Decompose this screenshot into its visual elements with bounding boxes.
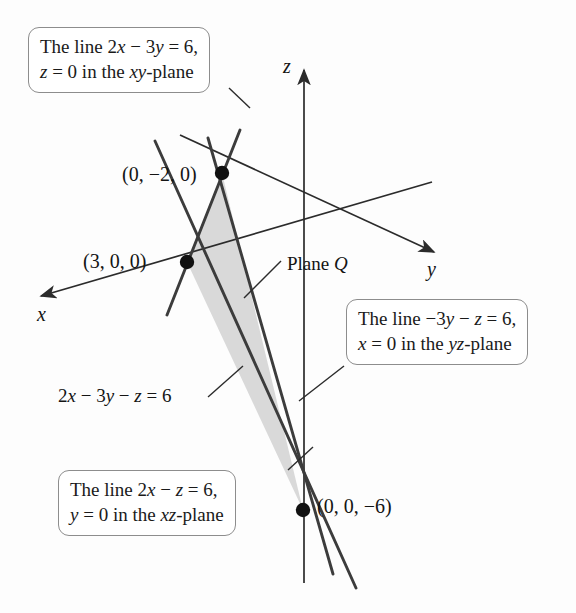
x-axis-label: x	[37, 303, 46, 326]
callout-yz-trace-line2: x = 0 in the yz-plane	[358, 331, 516, 356]
leader-line-plane-equation	[208, 366, 243, 397]
callout-xz-trace-line2: y = 0 in the xz-plane	[70, 502, 224, 527]
leader-line-xy-callout	[229, 88, 250, 108]
callout-xy-trace-line1: The line 2x − 3y = 6,	[40, 34, 198, 59]
point-label-3-0-0: (3, 0, 0)	[83, 250, 146, 273]
plane-q-label: Plane Q	[287, 253, 348, 275]
callout-xy-trace-line2: z = 0 in the xy-plane	[40, 59, 198, 84]
point-label-0-0-neg6: (0, 0, −6)	[317, 495, 392, 518]
leader-line-yz-callout	[299, 366, 344, 401]
callout-xz-trace: The line 2x − z = 6, y = 0 in the xz-pla…	[58, 470, 236, 536]
y-axis-label: y	[427, 258, 436, 281]
callout-xz-trace-line1: The line 2x − z = 6,	[70, 477, 224, 502]
callout-yz-trace: The line −3y − z = 6, x = 0 in the yz-pl…	[346, 299, 528, 365]
plane-equation-label: 2x − 3y − z = 6	[58, 385, 171, 407]
point-dot-0-0-neg6	[296, 503, 310, 517]
point-dot-0-neg2-0	[215, 166, 229, 180]
point-label-0-neg2-0: (0, −2, 0)	[122, 163, 197, 186]
figure-canvas: The line 2x − 3y = 6, z = 0 in the xy-pl…	[0, 0, 576, 613]
callout-xy-trace: The line 2x − 3y = 6, z = 0 in the xy-pl…	[28, 27, 210, 93]
point-dot-3-0-0	[180, 255, 194, 269]
callout-yz-trace-line1: The line −3y − z = 6,	[358, 306, 516, 331]
z-axis-label: z	[283, 55, 291, 78]
